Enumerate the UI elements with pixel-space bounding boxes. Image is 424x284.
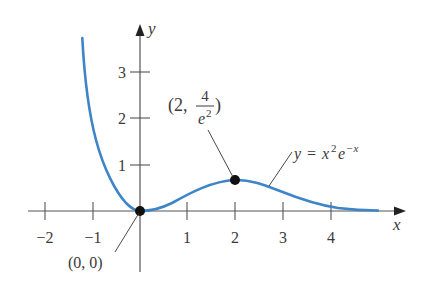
svg-text:x: x xyxy=(321,145,329,162)
x-tick-label: 1 xyxy=(183,229,191,246)
equation-leader-line xyxy=(269,152,292,186)
x-tick-label: 3 xyxy=(279,229,287,246)
x-tick-label: 2 xyxy=(231,229,239,246)
svg-text:e: e xyxy=(338,145,345,162)
y-axis-arrow-icon xyxy=(136,24,145,36)
svg-text:−x: −x xyxy=(346,142,358,154)
svg-text:): ) xyxy=(215,95,221,116)
y-axis xyxy=(130,24,150,272)
x-axis xyxy=(28,202,406,220)
svg-text:e: e xyxy=(198,110,205,127)
origin-leader-line xyxy=(115,213,139,252)
origin-label: (0, 0) xyxy=(68,254,103,272)
x-tick-label: −2 xyxy=(36,229,53,246)
y-tick-label: 2 xyxy=(118,110,126,127)
svg-text:y: y xyxy=(292,145,302,163)
origin-point xyxy=(135,206,145,216)
svg-text:(2,: (2, xyxy=(168,95,188,116)
svg-text:=: = xyxy=(307,145,316,162)
x-tick-label: −1 xyxy=(84,229,101,246)
svg-text:4: 4 xyxy=(201,88,209,104)
y-tick-label: 3 xyxy=(118,64,126,81)
svg-text:2: 2 xyxy=(206,107,212,119)
y-tick-label: 1 xyxy=(118,157,126,174)
equation-label: y = x 2 e −x xyxy=(292,142,358,163)
y-axis-label: y xyxy=(146,19,156,38)
x-tick-label: 4 xyxy=(327,229,335,246)
graph: y x −2 −1 1 2 3 4 3 2 1 (0, 0) (2, 4 e 2… xyxy=(0,0,424,284)
svg-text:2: 2 xyxy=(331,142,337,154)
function-curve xyxy=(82,38,378,211)
maximum-point xyxy=(230,175,240,185)
x-axis-label: x xyxy=(392,215,401,234)
maximum-label: (2, 4 e 2 ) xyxy=(168,88,221,127)
maximum-leader-line xyxy=(208,130,233,177)
